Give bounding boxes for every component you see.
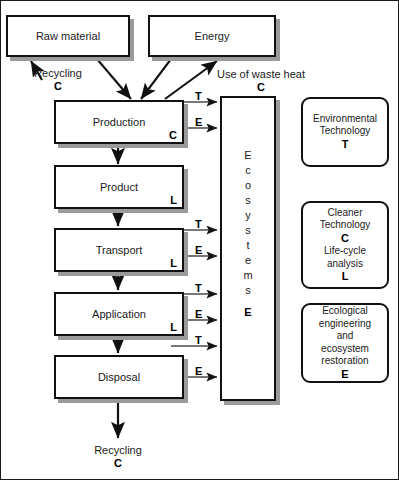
flow-label-transport-t: T	[195, 219, 202, 230]
caption-waste-heat: Use of waste heat C	[201, 68, 321, 94]
legend-environmental-technology-text: EnvironmentalTechnologyT	[309, 113, 381, 152]
flow-label-transport-e: E	[195, 245, 202, 256]
legend-environmental-technology[interactable]: EnvironmentalTechnologyT	[301, 97, 389, 167]
box-raw-material[interactable]: Raw material	[6, 15, 130, 57]
caption-recycling-top: Recycling C	[21, 67, 95, 93]
caption-recycling-top-text: Recycling	[34, 67, 82, 79]
flow-label-production-t: T	[195, 91, 202, 102]
flow-label-production-e: E	[195, 117, 202, 128]
box-ecosystems-code: E	[222, 306, 274, 318]
box-application-label: Application	[56, 308, 182, 321]
box-transport-code: L	[170, 257, 177, 269]
ecosystems-letter: s	[222, 193, 274, 208]
legend-line: Technology	[320, 219, 371, 232]
legend-line: Technology	[313, 125, 377, 138]
flow-label-application-t-2: T	[195, 335, 202, 346]
legend-line: restoration	[319, 355, 371, 368]
legend-code: L	[320, 270, 371, 284]
box-ecosystems[interactable]: Ecosystems E	[220, 96, 276, 401]
legend-ecological-engineering[interactable]: Ecologicalengineeringandecosystemrestora…	[301, 303, 389, 383]
box-application[interactable]: Application L	[54, 292, 184, 336]
box-product-code: L	[170, 194, 177, 206]
legend-line: ecosystem	[319, 343, 371, 356]
box-transport-label: Transport	[56, 244, 182, 257]
box-production-label: Production	[56, 116, 182, 129]
legend-code: E	[319, 368, 371, 382]
caption-recycling-bottom-text: Recycling	[94, 444, 142, 456]
legend-line: Life-cycle	[320, 245, 371, 258]
caption-recycling-top-code: C	[21, 80, 95, 93]
box-application-code: L	[170, 321, 177, 333]
box-disposal[interactable]: Disposal	[54, 355, 184, 399]
box-production-code: C	[169, 129, 177, 141]
caption-waste-heat-code: C	[201, 81, 321, 94]
arrow-energy-to-production	[141, 59, 171, 99]
box-ecosystems-label: Ecosystems	[222, 148, 274, 298]
caption-recycling-bottom-code: C	[79, 457, 157, 470]
flow-label-application-t: T	[195, 283, 202, 294]
ecosystems-letter: c	[222, 163, 274, 178]
legend-code: T	[313, 138, 377, 152]
legend-line: Cleaner	[320, 207, 371, 220]
ecosystems-letter: m	[222, 268, 274, 283]
flow-label-application-e: E	[195, 309, 202, 320]
arrow-rawmaterial-to-production	[97, 59, 131, 99]
box-product-label: Product	[56, 181, 182, 194]
legend-line: engineering	[319, 318, 371, 331]
legend-cleaner-technology-text: CleanerTechnologyCLife-cycleanalysisL	[316, 207, 375, 284]
flow-label-disposal-e: E	[195, 366, 202, 377]
legend-line: Environmental	[313, 113, 377, 126]
legend-line: Ecological	[319, 305, 371, 318]
ecosystems-letter: E	[222, 148, 274, 163]
box-energy[interactable]: Energy	[148, 15, 276, 57]
box-product[interactable]: Product L	[54, 165, 184, 209]
box-energy-label: Energy	[150, 30, 274, 43]
diagram-canvas: Raw material Energy Recycling C Use of w…	[0, 0, 399, 480]
legend-ecological-engineering-text: Ecologicalengineeringandecosystemrestora…	[315, 305, 375, 381]
box-transport[interactable]: Transport L	[54, 228, 184, 272]
box-disposal-label: Disposal	[56, 371, 182, 384]
legend-cleaner-technology[interactable]: CleanerTechnologyCLife-cycleanalysisL	[301, 201, 389, 289]
caption-recycling-bottom: Recycling C	[79, 444, 157, 470]
caption-waste-heat-text: Use of waste heat	[217, 68, 305, 80]
legend-code: C	[320, 232, 371, 246]
ecosystems-letter: y	[222, 208, 274, 223]
ecosystems-letter: t	[222, 238, 274, 253]
legend-line: and	[319, 330, 371, 343]
box-raw-material-label: Raw material	[8, 30, 128, 43]
ecosystems-letter: e	[222, 253, 274, 268]
ecosystems-letter: o	[222, 178, 274, 193]
ecosystems-letter: s	[222, 283, 274, 298]
box-production[interactable]: Production C	[54, 100, 184, 144]
legend-line: analysis	[320, 258, 371, 271]
ecosystems-letter: s	[222, 223, 274, 238]
